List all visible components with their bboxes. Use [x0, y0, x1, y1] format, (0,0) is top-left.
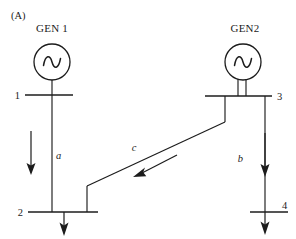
bus-2-label: 2: [18, 207, 23, 218]
branch-b-flow-arrow-icon: [261, 133, 270, 177]
schematic-canvas: (A) GEN 1 GEN2 1 3: [0, 0, 296, 239]
branch-b-group: b: [238, 96, 270, 212]
bus-2-group: 2: [18, 207, 98, 218]
bus-1-label: 1: [15, 90, 20, 101]
branch-a-group: a: [27, 95, 62, 212]
bus-4-label: 4: [282, 200, 288, 211]
bus-1-group: 1: [15, 90, 73, 101]
bus-4-group: 4: [250, 200, 288, 212]
generator-1-label: GEN 1: [36, 22, 68, 34]
branch-a-label: a: [56, 150, 61, 161]
load-bus-2-arrow-icon: [60, 212, 69, 236]
bus-3-label: 3: [277, 91, 282, 102]
generator-2-label: GEN2: [231, 22, 260, 34]
load-bus-4-arrow-icon: [261, 212, 270, 235]
branch-c-flow-arrow-icon: [133, 155, 177, 177]
branch-c-segment-diagonal: [87, 122, 225, 186]
branch-c-label: c: [132, 142, 137, 153]
branch-b-label: b: [238, 153, 243, 164]
panel-tag-label: (A): [11, 10, 26, 22]
bus-3-group: 3: [205, 91, 282, 102]
generator-2-group: GEN2: [225, 22, 261, 96]
branch-c-group: c: [87, 96, 225, 212]
power-system-one-line-diagram: (A) GEN 1 GEN2 1 3: [0, 0, 296, 239]
branch-a-flow-arrow-icon: [27, 131, 36, 175]
generator-1-group: GEN 1: [34, 22, 70, 95]
